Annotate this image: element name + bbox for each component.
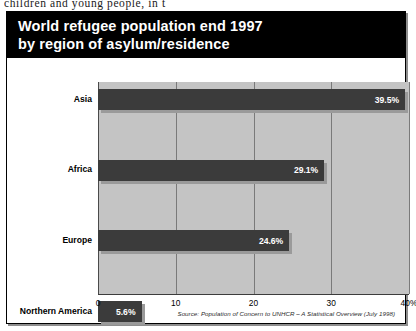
bar-row: Northern America5.6% xyxy=(18,188,409,223)
bar-row: Africa29.1% xyxy=(18,117,409,152)
bar-value-label: 39.5% xyxy=(369,95,399,105)
gridline xyxy=(409,82,410,294)
chart-figure: World refugee population end 1997 by reg… xyxy=(6,11,406,324)
chart-title-line-2: by region of asylum/residence xyxy=(18,35,405,53)
page-root: children and young people, in t World re… xyxy=(0,0,416,331)
source-citation: Source: Population of Concern to UNHCR –… xyxy=(177,310,395,317)
bar-row: Latin America &Caribbean0.7% xyxy=(18,223,409,258)
plot-wrapper: Asia39.5%Africa29.1%Europe24.6%Northern … xyxy=(18,82,396,310)
chart-title-banner: World refugee population end 1997 by reg… xyxy=(7,12,405,58)
bar-category-label: Northern America xyxy=(18,307,92,317)
x-tick-label: 40% xyxy=(393,298,416,308)
x-tick-label: 10 xyxy=(160,298,192,308)
surrounding-body-text: children and young people, in t xyxy=(4,0,334,10)
bar-row: Oceania0.6% xyxy=(18,259,409,294)
bar-row: Europe24.6% xyxy=(18,153,409,188)
x-tick-label: 0 xyxy=(82,298,114,308)
bar-rows: Asia39.5%Africa29.1%Europe24.6%Northern … xyxy=(18,82,409,294)
x-tick-label: 30 xyxy=(315,298,347,308)
bar xyxy=(98,89,405,110)
bar-value-label: 5.6% xyxy=(106,307,136,317)
chart-title-line-1: World refugee population end 1997 xyxy=(18,17,405,35)
bar-row: Asia39.5% xyxy=(18,82,409,117)
x-tick-label: 20 xyxy=(238,298,270,308)
bar-category-label: Asia xyxy=(18,95,92,105)
x-axis-line xyxy=(98,294,409,295)
